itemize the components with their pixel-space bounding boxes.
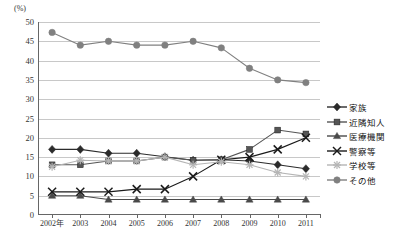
x-axis-tick-label: 2004 bbox=[101, 219, 117, 228]
legend-label: その他 bbox=[348, 174, 376, 186]
y-axis-tick-label: 45 bbox=[12, 37, 34, 45]
legend-label: 警察等 bbox=[348, 145, 376, 157]
series-1 bbox=[49, 127, 309, 168]
x-axis-tick-label: 2005 bbox=[129, 219, 145, 228]
legend-item-5[interactable]: その他 bbox=[326, 173, 402, 188]
triangle-marker-icon bbox=[326, 129, 348, 143]
y-axis-tick-label: 40 bbox=[12, 57, 34, 65]
y-axis-tick-label: 10 bbox=[12, 172, 34, 180]
x-axis-tick-label: 2011 bbox=[298, 219, 314, 228]
circle-marker-icon bbox=[326, 173, 348, 187]
y-axis-tick-label: 35 bbox=[12, 76, 34, 84]
square-marker-icon bbox=[326, 115, 348, 129]
y-axis-tick-label: 15 bbox=[12, 153, 34, 161]
chart-legend: 家族近隣知人医療機関警察等学校等その他 bbox=[326, 100, 402, 187]
x-axis-tick-label: 2002年 bbox=[40, 219, 64, 228]
diamond-marker-icon bbox=[326, 100, 348, 114]
legend-item-0[interactable]: 家族 bbox=[326, 100, 402, 115]
x-axis-tick-label: 2007 bbox=[185, 219, 201, 228]
y-axis-tick-label: 20 bbox=[12, 134, 34, 142]
x-axis-tick-label: 2003 bbox=[72, 219, 88, 228]
x-axis-end-tick bbox=[320, 214, 321, 218]
legend-item-3[interactable]: 警察等 bbox=[326, 144, 402, 159]
series-layer bbox=[38, 22, 320, 215]
asterisk-marker-icon bbox=[326, 158, 348, 172]
x-axis-tick-label: 2010 bbox=[270, 219, 286, 228]
chart-container: (%) 05101520253035404550 2002年2003200420… bbox=[0, 0, 405, 250]
y-axis-tick-label: 25 bbox=[12, 115, 34, 123]
x-axis-tick-label: 2006 bbox=[157, 219, 173, 228]
y-axis-tick-label: 0 bbox=[12, 211, 34, 219]
x-axis-tick-label: 2009 bbox=[242, 219, 258, 228]
legend-item-1[interactable]: 近隣知人 bbox=[326, 115, 402, 130]
series-4 bbox=[48, 153, 310, 180]
legend-item-4[interactable]: 学校等 bbox=[326, 158, 402, 173]
legend-label: 家族 bbox=[348, 101, 367, 113]
y-axis-tick-label: 50 bbox=[12, 18, 34, 26]
y-axis-tick-label: 5 bbox=[12, 192, 34, 200]
y-axis-unit-label: (%) bbox=[14, 4, 26, 13]
series-2 bbox=[49, 192, 310, 202]
cross-marker-icon bbox=[326, 144, 348, 158]
y-axis-tick-label: 30 bbox=[12, 95, 34, 103]
legend-label: 近隣知人 bbox=[348, 116, 385, 128]
legend-label: 学校等 bbox=[348, 159, 376, 171]
legend-label: 医療機関 bbox=[348, 130, 385, 142]
legend-item-2[interactable]: 医療機関 bbox=[326, 129, 402, 144]
series-5 bbox=[49, 29, 309, 86]
x-axis-tick-label: 2008 bbox=[213, 219, 229, 228]
plot-area bbox=[38, 22, 320, 215]
series-3 bbox=[48, 134, 310, 196]
